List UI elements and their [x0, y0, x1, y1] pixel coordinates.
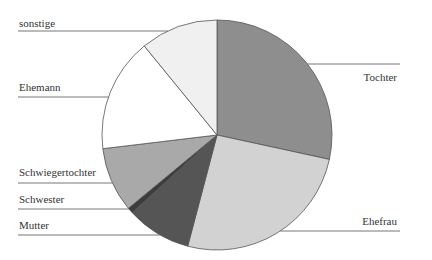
label-ehefrau: Ehefrau	[362, 215, 397, 227]
label-schwester: Schwester	[19, 193, 65, 205]
label-ehemann: Ehemann	[19, 81, 61, 93]
pie-chart: Tochter Ehefrau Mutter Schwester Schwieg…	[0, 0, 432, 260]
label-mutter: Mutter	[19, 219, 49, 231]
label-sonstige: sonstige	[19, 17, 55, 29]
label-tochter: Tochter	[364, 71, 398, 83]
pie-slices	[102, 20, 332, 250]
label-schwiegertochter: Schwiegertochter	[19, 166, 96, 178]
